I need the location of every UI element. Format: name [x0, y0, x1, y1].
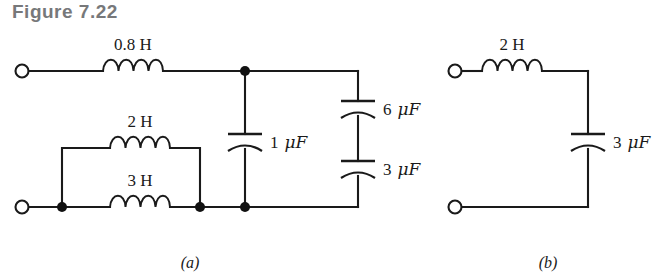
circuit-b: 2 H 3μF (b) — [449, 35, 652, 272]
inductor-3h — [110, 196, 170, 207]
capacitor-1uf-label: 1μF — [270, 132, 309, 152]
node-a-top-center — [240, 66, 250, 76]
node-a-bottom-left — [57, 202, 67, 212]
capacitor-6uf-label: 6μF — [383, 99, 422, 119]
terminal-a-top-left — [16, 65, 29, 78]
inductor-2h-label: 2 H — [127, 112, 152, 131]
inductor-2h — [110, 137, 170, 148]
inductor-2h-b — [482, 60, 542, 71]
inductor-0-8h — [103, 60, 163, 71]
subfigure-caption-a: (a) — [181, 254, 200, 272]
node-a-bottom-center — [240, 202, 250, 212]
inductor-2h-b-label: 2 H — [499, 35, 524, 54]
wire-2h-branch-left — [62, 148, 110, 207]
subfigure-caption-b: (b) — [539, 254, 558, 272]
wire-2h-branch-right — [170, 148, 200, 207]
capacitor-3uf-a-label: 3μF — [383, 159, 422, 179]
circuit-diagram: 0.8 H 3 H 2 H — [0, 0, 667, 280]
circuit-a: 0.8 H 3 H 2 H — [16, 35, 422, 272]
terminal-b-top-left — [449, 65, 462, 78]
inductor-0-8h-label: 0.8 H — [114, 35, 152, 54]
figure-container: Figure 7.22 0.8 H — [0, 0, 667, 280]
capacitor-3uf-b-label: 3μF — [613, 132, 652, 152]
terminal-b-bottom-left — [449, 201, 462, 214]
inductor-3h-label: 3 H — [127, 171, 152, 190]
terminal-a-bottom-left — [16, 201, 29, 214]
node-a-bottom-mid — [195, 202, 205, 212]
